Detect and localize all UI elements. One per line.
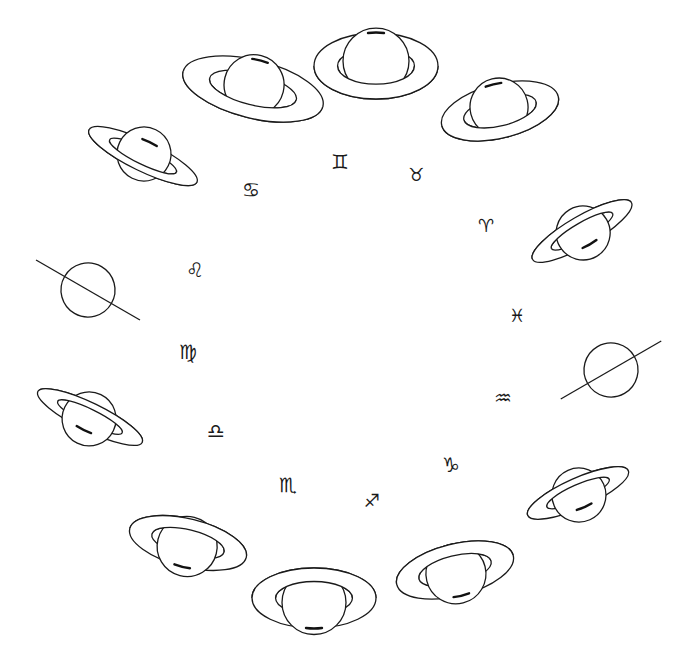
saturn-zodiac-diagram: ♊♉♈♓♒♑♐♏♎♍♌♋ [0,0,693,667]
zodiac-aries-icon: ♈ [478,217,494,235]
saturn-top-icon [314,28,438,99]
zodiac-cancer-icon: ♋ [242,180,260,200]
saturn-right-lower-icon [518,448,640,542]
saturn-left-lower-icon [25,369,153,468]
saturn-top-right-icon [434,64,565,151]
saturn-bottom-icon [252,568,376,635]
zodiac-sagittarius-icon: ♐ [364,492,380,510]
saturn-left-upper-icon [78,103,210,204]
zodiac-leo-icon: ♌ [186,260,204,280]
saturn-left-edge-on-icon [23,237,154,344]
saturn-right-upper-icon [520,181,646,285]
saturn-top-left-icon [176,38,331,134]
saturn-phases-layer [0,0,693,667]
saturn-right-edge-on-icon [547,318,674,423]
zodiac-scorpio-icon: ♏ [279,475,297,495]
zodiac-taurus-icon: ♉ [408,166,424,184]
zodiac-libra-icon: ♎ [207,421,225,441]
zodiac-pisces-icon: ♓ [509,307,525,325]
zodiac-gemini-icon: ♊ [331,152,349,172]
zodiac-aquarius-icon: ♒ [494,388,512,408]
zodiac-virgo-icon: ♍ [179,342,197,362]
saturn-bottom-right-icon [390,530,521,617]
saturn-bottom-left-icon [122,503,253,590]
zodiac-capricorn-icon: ♑ [442,455,460,475]
